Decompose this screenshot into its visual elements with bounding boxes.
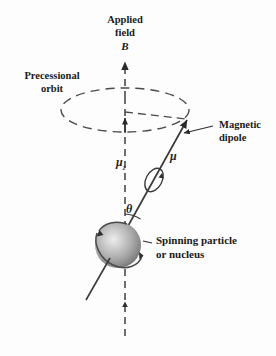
spinning-particle-sphere bbox=[95, 222, 144, 268]
spinning-particle-leader-line bbox=[143, 241, 152, 243]
field-vector-symbol: B bbox=[89, 40, 161, 52]
orbit-radius-line bbox=[125, 112, 186, 119]
magnetic-dipole-leader-line bbox=[184, 126, 213, 133]
field-axis-tail-marker bbox=[122, 302, 128, 308]
dipole-vector-tail bbox=[86, 258, 110, 300]
theta-symbol-label: θ bbox=[126, 203, 132, 216]
precessional-orbit-label-line1: Precessional bbox=[6, 70, 98, 82]
spinning-particle-label-line1: Spinning particle bbox=[156, 234, 237, 246]
magnetic-dipole-label-line2: dipole bbox=[219, 132, 246, 144]
mu-z-label: μz bbox=[100, 134, 126, 190]
applied-field-label-line2: field bbox=[89, 27, 161, 39]
mu-z-symbol: μ bbox=[116, 155, 123, 169]
mu-symbol-label: μ bbox=[170, 150, 177, 163]
diagram-canvas bbox=[0, 0, 276, 356]
precessional-orbit-label-line2: orbit bbox=[6, 83, 98, 95]
applied-field-label-line1: Applied bbox=[89, 14, 161, 26]
magnetic-dipole-label-line1: Magnetic bbox=[219, 119, 261, 131]
spinning-particle-label-line2: or nucleus bbox=[156, 248, 204, 260]
mu-z-subscript: z bbox=[123, 163, 126, 172]
nmr-precession-diagram: Applied field B Precessional orbit μz μ … bbox=[0, 0, 276, 356]
applied-field-axis bbox=[122, 62, 128, 336]
